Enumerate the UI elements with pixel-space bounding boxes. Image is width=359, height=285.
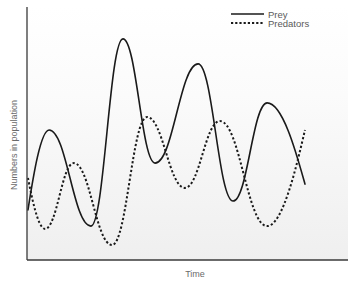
x-axis-label: Time	[185, 269, 205, 279]
predator-prey-chart: Time Numbers in population Prey Predator…	[0, 0, 359, 285]
legend-label-predators: Predators	[268, 18, 309, 29]
y-axis-label: Numbers in population	[9, 100, 19, 190]
plot-background	[27, 7, 348, 260]
